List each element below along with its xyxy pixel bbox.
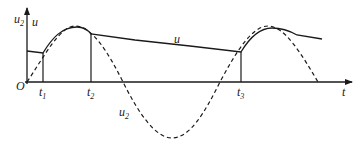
u-curve-label: u [174, 33, 180, 45]
rectifier-waveform-diagram [0, 0, 361, 153]
y-axis-label-u2: u2 [14, 13, 24, 28]
t2-label: t2 [87, 86, 94, 101]
u2-curve-label: u2 [119, 106, 129, 121]
t3-label: t3 [237, 86, 244, 101]
y-axis-label-u: u [32, 16, 38, 28]
origin-label: O [16, 80, 25, 92]
x-axis-label-t: t [342, 86, 345, 98]
t1-label: t1 [39, 86, 46, 101]
